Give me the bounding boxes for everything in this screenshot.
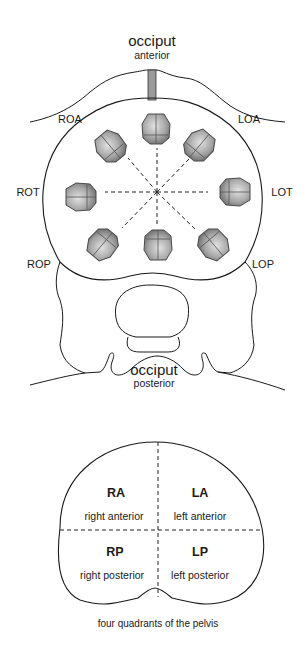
occiput-posterior-subtitle: posterior: [134, 378, 175, 389]
quadrant-ra-abbr: RA: [107, 487, 125, 500]
head-LOA: [179, 125, 220, 166]
radial-dashed-lines: [105, 148, 208, 230]
occiput-anterior-title: occiput: [128, 33, 176, 48]
pelvis-position-diagram: [0, 0, 304, 647]
quadrant-rp-abbr: RP: [106, 546, 123, 559]
quadrant-la-label: left anterior: [174, 511, 227, 522]
position-label-rop: ROP: [27, 259, 51, 270]
quadrant-lp-label: left posterior: [171, 570, 229, 581]
quadrant-lp-abbr: LP: [192, 546, 208, 559]
spine: [148, 70, 156, 100]
sacral-body: [115, 285, 188, 337]
ilium-outline: [56, 262, 256, 375]
quadrant-rp-label: right posterior: [80, 570, 144, 581]
head-LOP: [193, 224, 234, 265]
position-label-rot: ROT: [16, 187, 39, 198]
occiput-anterior-subtitle: anterior: [134, 50, 170, 61]
quadrant-ra-label: right anterior: [85, 511, 144, 522]
quadrant-caption: four quadrants of the pelvis: [98, 619, 219, 629]
coccyx: [127, 337, 179, 352]
position-label-lop: LOP: [252, 259, 274, 270]
head-ROP: [82, 224, 123, 265]
quadrant-la-abbr: LA: [192, 487, 209, 500]
head-OP: [144, 230, 172, 260]
head-ROT: [66, 183, 96, 211]
position-label-roa: ROA: [58, 114, 82, 125]
occiput-posterior-title: occiput: [130, 362, 178, 377]
head-LOT: [220, 178, 250, 206]
head-OA: [142, 114, 170, 144]
head-ROA: [90, 126, 131, 167]
position-label-lot: LOT: [271, 187, 292, 198]
position-label-loa: LOA: [238, 114, 260, 125]
